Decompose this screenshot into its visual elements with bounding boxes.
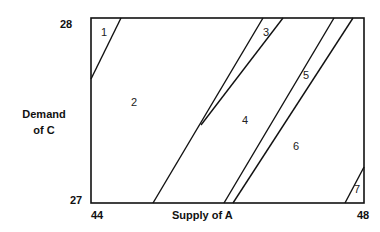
boundary-line-4-5 — [224, 18, 334, 203]
region-label-6: 6 — [293, 140, 299, 152]
plot-frame — [91, 18, 364, 203]
boundary-line-5-6 — [233, 18, 353, 203]
boundary-line-3 — [201, 18, 283, 125]
boundary-line-2-4 — [153, 18, 263, 203]
y-axis-label-line2: of C — [14, 124, 74, 136]
region-label-2: 2 — [131, 96, 137, 108]
region-label-3: 3 — [263, 26, 269, 38]
region-label-1: 1 — [101, 26, 107, 38]
region-label-4: 4 — [242, 114, 248, 126]
y-tick-top: 28 — [60, 18, 72, 30]
y-axis-label-line1: Demand — [14, 108, 74, 120]
x-axis-label: Supply of A — [172, 209, 233, 221]
region-label-7: 7 — [354, 183, 360, 195]
region-label-5: 5 — [303, 69, 309, 81]
y-tick-bottom: 27 — [70, 194, 82, 206]
x-tick-right: 48 — [357, 209, 369, 221]
x-tick-left: 44 — [91, 209, 103, 221]
